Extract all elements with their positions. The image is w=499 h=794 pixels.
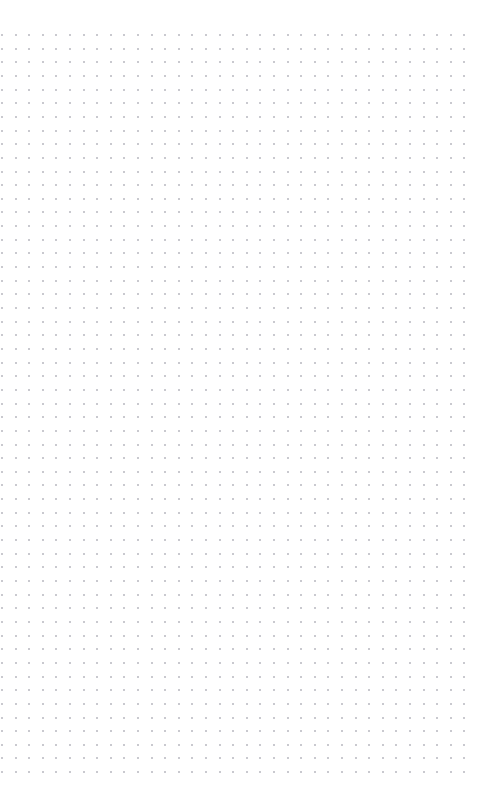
grid-dot xyxy=(300,580,302,582)
grid-dot xyxy=(15,553,17,555)
grid-dot xyxy=(42,403,44,405)
grid-dot xyxy=(164,484,166,486)
grid-dot xyxy=(83,375,85,377)
grid-dot xyxy=(423,703,425,705)
grid-dot xyxy=(423,171,425,173)
grid-dot xyxy=(69,280,71,282)
grid-dot xyxy=(341,676,343,678)
grid-dot xyxy=(368,457,370,459)
grid-dot xyxy=(273,61,275,63)
grid-dot xyxy=(355,730,357,732)
grid-dot xyxy=(15,375,17,377)
grid-dot xyxy=(314,703,316,705)
grid-dot xyxy=(69,621,71,623)
grid-dot xyxy=(123,225,125,227)
grid-dot xyxy=(314,594,316,596)
grid-dot xyxy=(423,594,425,596)
grid-dot xyxy=(450,307,452,309)
grid-dot xyxy=(463,689,465,691)
grid-dot xyxy=(450,239,452,241)
grid-dot xyxy=(463,757,465,759)
grid-dot xyxy=(300,334,302,336)
grid-dot xyxy=(259,676,261,678)
grid-dot xyxy=(15,635,17,637)
grid-dot xyxy=(69,239,71,241)
grid-dot xyxy=(395,389,397,391)
grid-dot xyxy=(55,61,57,63)
grid-dot xyxy=(246,89,248,91)
grid-dot xyxy=(123,307,125,309)
grid-dot xyxy=(205,730,207,732)
grid-dot xyxy=(1,689,3,691)
grid-dot xyxy=(327,566,329,568)
grid-dot xyxy=(246,75,248,77)
grid-dot xyxy=(1,252,3,254)
grid-dot xyxy=(300,225,302,227)
grid-dot xyxy=(395,348,397,350)
grid-dot xyxy=(55,416,57,418)
grid-dot xyxy=(191,457,193,459)
grid-dot xyxy=(259,771,261,773)
grid-dot xyxy=(246,61,248,63)
grid-dot xyxy=(83,280,85,282)
grid-dot xyxy=(259,744,261,746)
grid-dot xyxy=(219,130,221,132)
grid-dot xyxy=(178,594,180,596)
grid-dot xyxy=(409,225,411,227)
grid-dot xyxy=(164,75,166,77)
grid-dot xyxy=(341,130,343,132)
grid-dot xyxy=(287,416,289,418)
grid-dot xyxy=(436,102,438,104)
grid-dot xyxy=(436,307,438,309)
grid-dot xyxy=(463,252,465,254)
grid-dot xyxy=(178,211,180,213)
grid-dot xyxy=(273,771,275,773)
grid-dot xyxy=(69,484,71,486)
grid-dot xyxy=(314,211,316,213)
grid-dot xyxy=(409,48,411,50)
grid-dot xyxy=(110,225,112,227)
grid-dot xyxy=(368,525,370,527)
grid-dot xyxy=(28,321,30,323)
grid-dot xyxy=(219,266,221,268)
grid-dot xyxy=(164,321,166,323)
grid-dot xyxy=(409,730,411,732)
grid-dot xyxy=(300,430,302,432)
grid-dot xyxy=(232,730,234,732)
dot-grid-canvas[interactable] xyxy=(0,0,499,794)
grid-dot xyxy=(55,553,57,555)
grid-dot xyxy=(395,61,397,63)
grid-dot xyxy=(96,252,98,254)
grid-dot xyxy=(55,771,57,773)
grid-dot xyxy=(110,771,112,773)
grid-dot xyxy=(341,607,343,609)
grid-dot xyxy=(178,607,180,609)
grid-dot xyxy=(327,389,329,391)
grid-dot xyxy=(423,389,425,391)
grid-dot xyxy=(436,621,438,623)
grid-dot xyxy=(123,89,125,91)
grid-dot xyxy=(42,416,44,418)
grid-dot xyxy=(423,211,425,213)
grid-dot xyxy=(55,75,57,77)
grid-dot xyxy=(355,771,357,773)
grid-dot xyxy=(205,61,207,63)
grid-dot xyxy=(110,184,112,186)
grid-dot xyxy=(327,771,329,773)
grid-dot xyxy=(83,689,85,691)
grid-dot xyxy=(164,635,166,637)
grid-dot xyxy=(355,539,357,541)
grid-dot xyxy=(1,321,3,323)
grid-dot xyxy=(436,157,438,159)
grid-dot xyxy=(83,539,85,541)
grid-dot xyxy=(300,607,302,609)
grid-dot xyxy=(368,403,370,405)
grid-dot xyxy=(273,34,275,36)
grid-dot xyxy=(314,580,316,582)
grid-dot xyxy=(219,457,221,459)
grid-dot xyxy=(273,416,275,418)
grid-dot xyxy=(164,525,166,527)
grid-dot xyxy=(205,648,207,650)
grid-dot xyxy=(15,757,17,759)
grid-dot xyxy=(409,703,411,705)
